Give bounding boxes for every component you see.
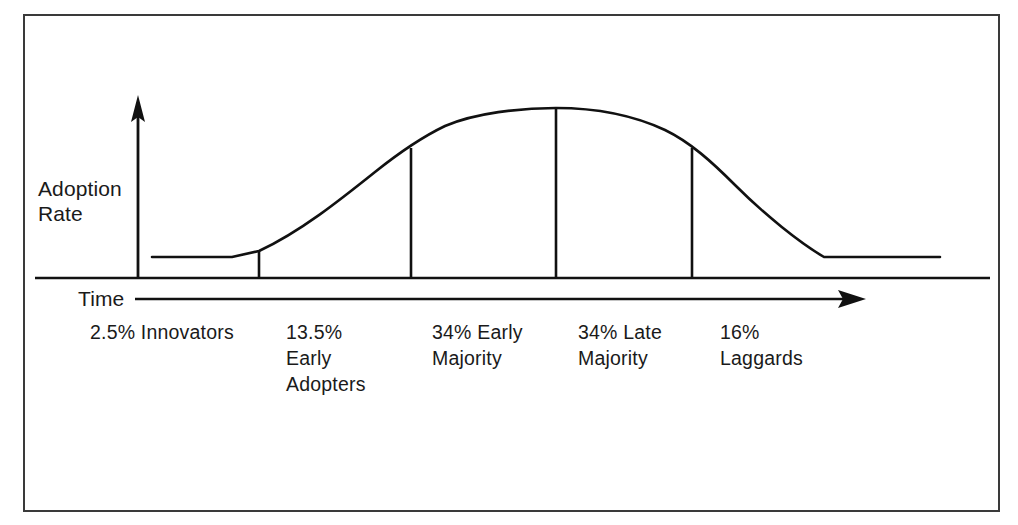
segment-label-early-majority: 34% Early Majority [432, 319, 523, 371]
segment-label-laggards: 16% Laggards [720, 319, 803, 371]
segment-label-late-majority: 34% Late Majority [578, 319, 662, 371]
x-axis-label: Time [78, 286, 124, 311]
figure-root: Adoption Rate Time 2.5% Innovators 13.5%… [0, 0, 1018, 525]
segment-label-innovators: 2.5% Innovators [90, 319, 234, 345]
y-axis-label: Adoption Rate [38, 176, 122, 226]
figure-border [23, 14, 1000, 512]
segment-label-early-adopters: 13.5% Early Adopters [286, 319, 366, 397]
